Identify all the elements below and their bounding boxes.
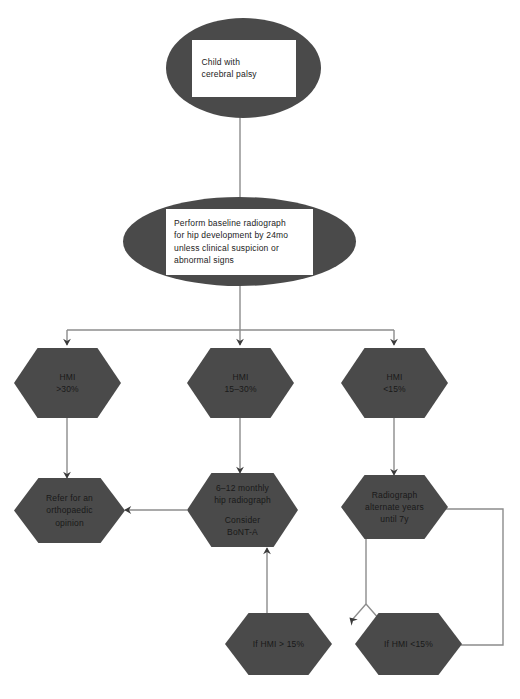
flowchart-canvas: Child with cerebral palsy Perform baseli… <box>0 0 520 699</box>
node-baseline-line4: abnormal signs <box>174 254 234 266</box>
node-monitor-text: 6–12 monthly hip radiograph Consider BoN… <box>187 482 298 538</box>
node-monitor-line4: BoNT-A <box>227 526 258 538</box>
node-hmi-greater-30-line1: HMI <box>59 371 75 383</box>
node-hmi-15-30-text: HMI 15–30% <box>187 371 294 396</box>
node-baseline-line2: for hip development by 24mo <box>174 229 288 241</box>
node-hmi-less-15-text: HMI <15% <box>341 371 448 396</box>
node-monitor-line2: hip radiograph <box>214 494 271 506</box>
node-monitor-line3: Consider <box>225 514 260 526</box>
node-alternate-line3: until 7y <box>380 513 408 525</box>
node-refer-text: Refer for an orthopaedic opinion <box>14 492 125 529</box>
node-refer-line3: opinion <box>55 517 84 529</box>
node-hmi-greater-30-text: HMI >30% <box>14 371 121 396</box>
node-child-textbox: Child with cerebral palsy <box>192 40 296 97</box>
node-alternate-line2: alternate years <box>365 501 424 513</box>
node-alternate-text: Radiograph alternate years until 7y <box>341 489 448 526</box>
node-hmi-less-15-line2: <15% <box>383 383 406 395</box>
node-if-hmi-greater-15-line1: If HMI > 15% <box>253 638 304 650</box>
edge-alternate-split-left <box>352 604 366 620</box>
node-if-hmi-less-15-text: If HMI <15% <box>355 638 462 650</box>
node-baseline-line3: unless clinical suspicion or <box>174 242 279 254</box>
node-hmi-less-15-line1: HMI <box>386 371 402 383</box>
node-if-hmi-greater-15-text: If HMI > 15% <box>225 638 332 650</box>
node-baseline-line1: Perform baseline radiograph <box>174 217 286 229</box>
node-refer-line1: Refer for an <box>46 492 93 504</box>
node-alternate-line1: Radiograph <box>372 489 418 501</box>
node-hmi-15-30-line2: 15–30% <box>224 383 256 395</box>
node-if-hmi-less-15-line1: If HMI <15% <box>384 638 433 650</box>
node-child-with-cerebral-palsy[interactable]: Child with cerebral palsy <box>166 18 321 118</box>
node-monitor-line1: 6–12 monthly <box>216 482 269 494</box>
node-child-line2: cerebral palsy <box>202 68 257 80</box>
node-baseline-textbox: Perform baseline radiograph for hip deve… <box>166 209 313 275</box>
node-perform-baseline-radiograph[interactable]: Perform baseline radiograph for hip deve… <box>123 197 356 286</box>
node-hmi-15-30-line1: HMI <box>232 371 248 383</box>
node-hmi-greater-30-line2: >30% <box>56 383 79 395</box>
node-child-line1: Child with <box>202 56 241 68</box>
node-refer-line2: orthopaedic <box>46 504 92 516</box>
